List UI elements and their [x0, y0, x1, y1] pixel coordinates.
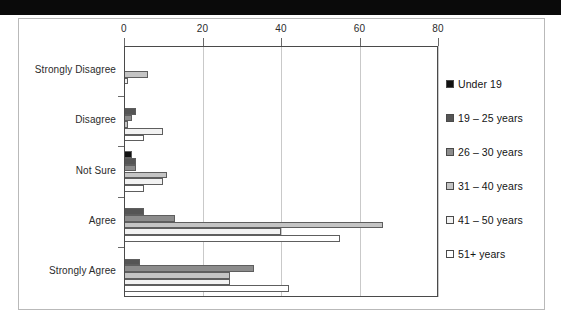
legend-item-label: 31 – 40 years — [458, 180, 523, 192]
x-axis-tick — [203, 38, 204, 46]
legend-swatch-icon — [446, 80, 454, 88]
legend-item[interactable]: 31 – 40 years — [446, 180, 523, 192]
y-axis-category-label: Agree — [6, 215, 116, 226]
x-axis-tick — [124, 38, 125, 46]
chart-page: Strongly DisagreeDisagreeNot SureAgreeSt… — [0, 0, 561, 331]
x-axis-tick — [281, 38, 282, 46]
legend-item-label: Under 19 — [458, 78, 502, 90]
y-axis-category-label: Strongly Agree — [6, 265, 116, 276]
y-axis-category-label: Strongly Disagree — [6, 64, 116, 75]
gridline — [438, 46, 439, 297]
legend-swatch-icon — [446, 182, 454, 190]
legend-item-label: 26 – 30 years — [458, 146, 523, 158]
legend-item[interactable]: Under 19 — [446, 78, 502, 90]
legend-swatch-icon — [446, 250, 454, 258]
legend-swatch-icon — [446, 148, 454, 156]
plot-frame — [124, 46, 438, 297]
x-axis-tick — [360, 38, 361, 46]
legend-item[interactable]: 19 – 25 years — [446, 112, 523, 124]
x-axis-tick-label: 20 — [188, 23, 218, 34]
legend-swatch-icon — [446, 114, 454, 122]
legend-item[interactable]: 41 – 50 years — [446, 214, 523, 226]
legend-item-label: 41 – 50 years — [458, 214, 523, 226]
y-axis-category-label: Not Sure — [6, 165, 116, 176]
x-axis-tick — [438, 38, 439, 46]
x-axis-tick-label: 60 — [345, 23, 375, 34]
plot-area — [124, 46, 438, 297]
y-axis-labels: Strongly DisagreeDisagreeNot SureAgreeSt… — [0, 0, 116, 331]
legend-item[interactable]: 26 – 30 years — [446, 146, 523, 158]
y-axis-category-label: Disagree — [6, 114, 116, 125]
x-axis-tick-label: 80 — [423, 23, 453, 34]
legend-swatch-icon — [446, 216, 454, 224]
x-axis-tick-label: 40 — [266, 23, 296, 34]
legend-item-label: 51+ years — [458, 248, 505, 260]
legend-item-label: 19 – 25 years — [458, 112, 523, 124]
x-axis-tick-label: 0 — [109, 23, 139, 34]
legend-item[interactable]: 51+ years — [446, 248, 505, 260]
